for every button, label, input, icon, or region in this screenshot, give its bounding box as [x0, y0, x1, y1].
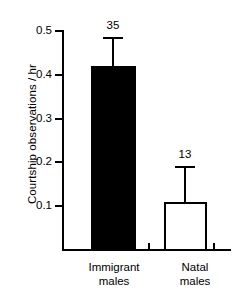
- sample-size-label-immigrant-males: 35: [93, 20, 133, 32]
- y-axis-line: [62, 30, 64, 251]
- sample-size-label-natal-males: 13: [165, 149, 205, 161]
- y-tick-label-0.5: 0.5: [36, 25, 52, 37]
- bar-chart-figure: Courtship observations / hr 0.1 0.2 0.3 …: [0, 0, 245, 301]
- y-axis-title: Courtship observations / hr: [26, 19, 38, 249]
- y-tick-mark-0.1: [55, 205, 63, 207]
- error-bar-cap-immigrant-males: [103, 37, 123, 39]
- category-label-line-1: Immigrant: [64, 261, 164, 275]
- bar-natal-males: [164, 202, 207, 251]
- y-tick-mark-0.4: [55, 74, 63, 76]
- y-tick-label-0.4: 0.4: [36, 69, 52, 81]
- bar-immigrant-males: [91, 66, 136, 251]
- category-label-line-1: Natal: [155, 261, 235, 275]
- category-label-line-2: males: [64, 275, 164, 289]
- y-tick-label-0.3: 0.3: [36, 113, 52, 125]
- y-tick-label-0.1: 0.1: [36, 200, 52, 212]
- error-bar-line-natal-males: [184, 166, 186, 204]
- x-tick-mark-1: [148, 243, 150, 251]
- y-tick-label-0.2: 0.2: [36, 156, 52, 168]
- category-label-line-2: males: [155, 275, 235, 289]
- y-tick-mark-0.2: [55, 161, 63, 163]
- y-tick-mark-0.3: [55, 118, 63, 120]
- x-axis-category-label-natal-males: Natal males: [155, 261, 235, 288]
- y-tick-mark-0.5: [55, 30, 63, 32]
- x-axis-category-label-immigrant-males: Immigrant males: [64, 261, 164, 288]
- error-bar-line-immigrant-males: [112, 37, 114, 67]
- error-bar-cap-natal-males: [175, 166, 195, 168]
- x-tick-mark-2: [213, 243, 215, 251]
